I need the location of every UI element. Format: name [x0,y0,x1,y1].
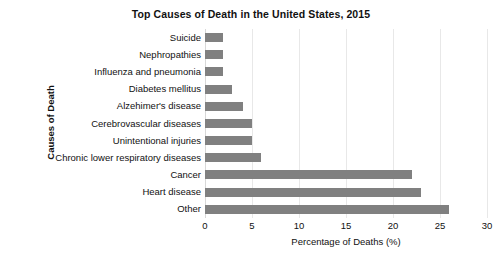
bar[interactable] [205,67,223,76]
chart-title: Top Causes of Death in the United States… [0,8,502,20]
bar-row[interactable] [205,115,487,132]
y-axis-tick-label: Chronic lower respiratory diseases [1,153,201,163]
y-axis-tick-label: Alzehimer's disease [1,101,201,111]
bar[interactable] [205,170,412,179]
x-axis-title: Percentage of Deaths (%) [205,236,487,247]
bar[interactable] [205,85,232,94]
bar-row[interactable] [205,149,487,166]
bar[interactable] [205,33,223,42]
y-axis-tick-label: Diabetes mellitus [1,84,201,94]
bar-row[interactable] [205,201,487,218]
x-axis-tick-label: 5 [232,220,272,231]
bar[interactable] [205,153,261,162]
bar-row[interactable] [205,63,487,80]
bar-row[interactable] [205,132,487,149]
bar-row[interactable] [205,29,487,46]
x-axis-tick-label: 10 [279,220,319,231]
bar-row[interactable] [205,98,487,115]
bar[interactable] [205,50,223,59]
bar-row[interactable] [205,166,487,183]
y-axis-tick-label: Heart disease [1,187,201,197]
bar[interactable] [205,188,421,197]
plot-area [205,29,487,218]
y-axis-tick-label: Influenza and pneumonia [1,67,201,77]
y-axis-tick-labels: SuicideNephropathiesInfluenza and pneumo… [0,29,201,218]
bar-row[interactable] [205,46,487,63]
bar-chart-figure: Top Causes of Death in the United States… [0,0,502,259]
bar[interactable] [205,205,449,214]
x-axis-tick-labels: 051015202530 [205,220,487,234]
bar-row[interactable] [205,81,487,98]
y-axis-tick-label: Cancer [1,170,201,180]
bar[interactable] [205,102,243,111]
bar-row[interactable] [205,184,487,201]
y-axis-tick-label: Other [1,204,201,214]
x-axis-tick-label: 30 [467,220,502,231]
y-axis-tick-label: Unintentional injuries [1,136,201,146]
x-axis-tick-label: 0 [185,220,225,231]
bar[interactable] [205,119,252,128]
x-axis-tick-label: 15 [326,220,366,231]
x-axis-tick-label: 25 [420,220,460,231]
y-axis-tick-label: Cerebrovascular diseases [1,119,201,129]
y-axis-tick-label: Nephropathies [1,50,201,60]
bar[interactable] [205,136,252,145]
gridline-30 [487,29,488,218]
y-axis-tick-label: Suicide [1,33,201,43]
x-axis-tick-label: 20 [373,220,413,231]
